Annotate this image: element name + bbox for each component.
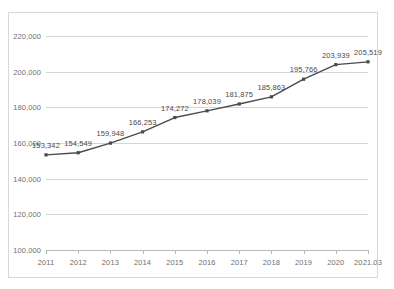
series-marker — [141, 130, 144, 133]
x-axis-tick-mark — [207, 250, 208, 254]
x-axis-tick-label: 2013 — [102, 258, 119, 267]
x-axis-tick-label: 2014 — [134, 258, 151, 267]
series-polyline — [46, 62, 368, 155]
data-point-label: 174,272 — [161, 104, 189, 113]
x-axis-tick-label: 2017 — [231, 258, 248, 267]
data-point-label: 159,948 — [96, 129, 124, 138]
data-point-label: 178,039 — [193, 97, 221, 106]
x-axis-tick-mark — [271, 250, 272, 254]
x-axis-tick-mark — [175, 250, 176, 254]
x-axis-tick-mark — [110, 250, 111, 254]
data-point-label: 154,549 — [64, 139, 92, 148]
x-axis-tick-label: 2020 — [327, 258, 344, 267]
data-point-label: 185,863 — [257, 83, 285, 92]
y-axis-tick-label: 220,000 — [13, 32, 41, 41]
x-axis-tick-mark — [336, 250, 337, 254]
x-axis-tick-label: 2012 — [70, 258, 87, 267]
series-marker — [44, 153, 47, 156]
data-point-label: 153,342 — [32, 141, 60, 150]
series-markers — [44, 60, 369, 156]
data-point-label: 195,766 — [290, 65, 318, 74]
y-axis-tick-label: 140,000 — [13, 174, 41, 183]
x-axis-tick-label: 2019 — [295, 258, 312, 267]
series-marker — [302, 78, 305, 81]
data-point-label: 205,519 — [354, 48, 382, 57]
series-marker — [366, 60, 369, 63]
chart-title-strip — [0, 0, 394, 10]
x-axis-tick-mark — [143, 250, 144, 254]
series-marker — [270, 95, 273, 98]
x-axis-tick-label: 2015 — [166, 258, 183, 267]
x-axis-tick-mark — [304, 250, 305, 254]
x-axis-tick-label: 2021.03 — [354, 258, 382, 267]
data-point-label: 181,875 — [225, 90, 253, 99]
data-point-label: 166,253 — [129, 118, 157, 127]
y-axis-tick-label: 120,000 — [13, 210, 41, 219]
x-axis-tick-label: 2018 — [263, 258, 280, 267]
x-axis-tick-label: 2016 — [198, 258, 215, 267]
y-axis-tick-label: 200,000 — [13, 67, 41, 76]
series-marker — [173, 116, 176, 119]
x-axis-tick-label: 2011 — [38, 258, 55, 267]
x-axis-tick-mark — [239, 250, 240, 254]
series-marker — [334, 63, 337, 66]
series-marker — [238, 102, 241, 105]
line-series — [46, 36, 368, 250]
x-axis-tick-mark — [368, 250, 369, 254]
y-axis-tick-label: 180,000 — [13, 103, 41, 112]
data-point-label: 203,939 — [322, 51, 350, 60]
plot-area: 220,000200,000180,000160,000140,000120,0… — [46, 36, 368, 250]
x-axis-tick-mark — [78, 250, 79, 254]
series-marker — [205, 109, 208, 112]
y-axis-tick-label: 100,000 — [13, 246, 41, 255]
chart-screenshot: 220,000200,000180,000160,000140,000120,0… — [0, 0, 394, 289]
series-marker — [77, 151, 80, 154]
series-marker — [109, 141, 112, 144]
x-axis-tick-mark — [46, 250, 47, 254]
